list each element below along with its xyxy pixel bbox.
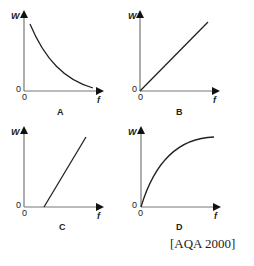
caption-d: D: [176, 222, 183, 232]
source-citation: [AQA 2000]: [170, 236, 235, 252]
curve-d: [141, 137, 214, 207]
svg-text:0: 0: [138, 92, 143, 102]
caption-b: B: [176, 107, 183, 117]
curve-a: [30, 24, 93, 88]
svg-text:f: f: [213, 95, 217, 105]
svg-text:0: 0: [16, 200, 21, 210]
line-b: [140, 22, 208, 91]
svg-text:0: 0: [132, 84, 137, 94]
svg-text:f: f: [214, 211, 218, 221]
svg-text:0: 0: [132, 200, 137, 210]
svg-text:f: f: [97, 95, 101, 105]
svg-text:W: W: [11, 127, 21, 137]
graph-d: W 0 0 f D: [128, 127, 218, 232]
caption-c: C: [59, 222, 66, 232]
svg-text:W: W: [128, 127, 138, 137]
graph-c: W 0 0 f C: [11, 127, 101, 232]
caption-a: A: [57, 107, 64, 117]
graph-b: W 0 0 f B: [128, 11, 217, 117]
graph-a: W 0 0 f A: [11, 11, 101, 117]
line-c: [44, 137, 86, 207]
svg-text:0: 0: [22, 208, 27, 218]
svg-text:0: 0: [138, 208, 143, 218]
svg-text:W: W: [128, 11, 138, 21]
svg-text:0: 0: [16, 84, 21, 94]
y-label: W: [11, 11, 21, 21]
svg-text:0: 0: [22, 92, 27, 102]
svg-text:f: f: [97, 211, 101, 221]
graphs-diagram: W 0 0 f A W 0 0 f B W 0 0 f C W 0 0 f D: [0, 0, 254, 266]
